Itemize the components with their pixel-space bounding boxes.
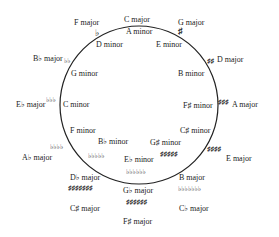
label-e-major: E major (226, 154, 252, 163)
accidentals-g-major: ♯ (178, 27, 183, 36)
label-a-major: A major (232, 100, 258, 109)
accidentals-c-flat-major: ♭♭♭♭♭♭♭ (178, 185, 201, 194)
label-b-minor: B minor (178, 69, 204, 78)
label-c-major: C major (124, 15, 150, 24)
accidentals-g-flat-major: ♭♭♭♭♭♭ (126, 168, 146, 177)
label-a-minor: A minor (126, 27, 152, 36)
label-a-flat-major: A♭ major (22, 153, 52, 162)
accidentals-e-major: ♯♯♯♯ (207, 145, 221, 154)
accidentals-f-major: ♭ (95, 29, 99, 38)
label-g-sharp-minor: G♯ minor (150, 138, 181, 147)
label-g-minor: G minor (71, 69, 98, 78)
accidentals-b-flat-major: ♭♭ (64, 57, 71, 66)
accidentals-d-major: ♯♯ (207, 57, 214, 66)
label-b-major: B major (179, 173, 205, 182)
label-f-sharp-minor: F♯ minor (183, 101, 213, 110)
label-d-major: D major (217, 55, 243, 64)
accidentals-e-flat-major: ♭♭♭ (46, 96, 56, 105)
label-c-minor: C minor (63, 100, 89, 109)
accidentals-a-major: ♯♯♯ (218, 98, 229, 107)
label-e-minor: E minor (156, 40, 182, 49)
label-c-sharp-major: C♯ major (70, 204, 100, 213)
label-e-flat-minor: E♭ minor (124, 155, 154, 164)
accidentals-a-flat-major: ♭♭♭♭ (50, 143, 63, 152)
label-b-flat-minor: B♭ minor (98, 137, 128, 146)
accidentals-d-flat-major: ♭♭♭♭♭ (88, 152, 105, 161)
label-c-sharp-minor: C♯ minor (180, 126, 210, 135)
label-d-flat-major: D♭ major (70, 173, 100, 182)
label-b-flat-major: B♭ major (33, 54, 63, 63)
label-f-sharp-major: F♯ major (123, 217, 152, 226)
accidentals-f-sharp-major: ♯♯♯♯♯♯ (126, 198, 147, 207)
label-f-major: F major (74, 18, 99, 27)
accidentals-c-sharp-major: ♯♯♯♯♯♯♯ (68, 184, 93, 193)
label-g-flat-major: G♭ major (123, 186, 153, 195)
label-d-minor: D minor (96, 40, 123, 49)
label-f-minor: F minor (70, 126, 96, 135)
accidentals-b-major: ♯♯♯♯♯ (160, 150, 178, 159)
label-c-flat-major: C♭ major (179, 204, 209, 213)
label-e-flat-major: E♭ major (16, 100, 45, 109)
